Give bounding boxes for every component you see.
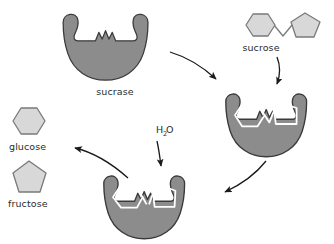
glucose-label: glucose (9, 141, 46, 152)
sucrose-glucose-hexagon (246, 14, 275, 36)
arrow-products-out (75, 148, 128, 178)
product-fructose-group (13, 161, 46, 192)
arrow-complex-to-hydrolysis (225, 161, 266, 192)
sucrase-enzyme-shape (63, 14, 148, 80)
arrow-enzyme-to-complex (170, 52, 216, 79)
enzyme-substrate-complex-group (226, 94, 307, 157)
complex-enzyme-shape (226, 94, 307, 157)
sucrose-fructose-pentagon (291, 13, 320, 37)
fructose-label: fructose (8, 198, 48, 209)
fructose-pentagon (13, 161, 46, 192)
free-enzyme-group (63, 14, 148, 80)
water-label-oxygen: O (166, 124, 174, 135)
sucrase-label: sucrase (96, 86, 133, 97)
water-label-group: H 2 O (156, 124, 174, 138)
free-sucrose-group (246, 13, 320, 37)
sucrose-label: sucrose (242, 42, 279, 53)
arrow-substrate-to-complex (277, 57, 280, 84)
hydrolysis-complex-group (104, 176, 185, 239)
glucose-hexagon (13, 108, 45, 134)
product-glucose-group (13, 108, 45, 134)
enzyme-reaction-diagram: sucrase sucrose H (0, 0, 334, 244)
arrow-water-in (157, 141, 161, 166)
glycosidic-bond (274, 25, 292, 36)
